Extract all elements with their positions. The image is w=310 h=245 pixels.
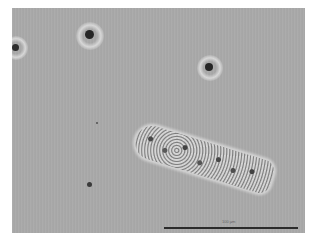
scale-bar-label: 100 µm bbox=[222, 219, 235, 224]
micrograph-image bbox=[12, 8, 305, 233]
particle-4 bbox=[87, 182, 92, 187]
particle-2 bbox=[85, 30, 94, 39]
particle-5 bbox=[96, 122, 98, 124]
elongated-cell bbox=[131, 122, 277, 196]
scale-bar bbox=[164, 227, 298, 229]
particle-1 bbox=[12, 44, 19, 51]
particle-3 bbox=[205, 63, 213, 71]
